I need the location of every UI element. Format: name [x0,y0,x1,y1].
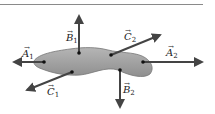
svg-text:→: → [124,80,130,88]
svg-text:→: → [67,28,73,36]
svg-text:→: → [24,44,30,52]
svg-text:→: → [48,82,54,90]
force-diagram: A1 → A2 → B1 → B2 → C1 → C2 → [0,0,215,114]
vector-a2: A2 → [141,43,202,64]
svg-text:→: → [125,27,131,35]
vector-c1: C1 → [27,70,74,99]
svg-text:→: → [168,43,174,51]
vector-c2: C2 → [109,27,160,57]
rigid-body [34,48,152,77]
